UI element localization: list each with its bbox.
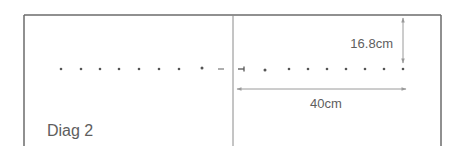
dot <box>364 68 367 71</box>
horizontal-dimension-label: 40cm <box>310 96 342 111</box>
dot <box>326 68 329 71</box>
dot <box>288 68 291 71</box>
vertical-dimension: 16.8cm <box>350 18 403 63</box>
dot-row-left <box>60 67 224 71</box>
dot <box>402 68 405 71</box>
dot <box>158 68 161 71</box>
dot <box>307 68 310 71</box>
dot <box>138 68 141 71</box>
dot <box>178 68 181 71</box>
diagram-caption: Diag 2 <box>47 122 93 139</box>
dot <box>264 69 267 72</box>
dot-row-right <box>238 67 404 72</box>
diagram-svg: 16.8cm 40cm Diag 2 <box>0 0 454 159</box>
dot <box>80 68 83 71</box>
horizontal-dimension: 40cm <box>237 89 406 111</box>
dot <box>383 68 386 71</box>
diagram-canvas: 16.8cm 40cm Diag 2 <box>0 0 454 159</box>
dot <box>60 68 63 71</box>
dot <box>345 68 348 71</box>
dot <box>201 67 204 70</box>
dot <box>118 68 121 71</box>
vertical-dimension-label: 16.8cm <box>350 36 393 51</box>
dot <box>99 68 102 71</box>
